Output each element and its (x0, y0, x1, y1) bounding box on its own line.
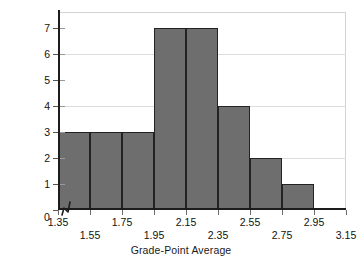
plot-area: 1234567 (58, 12, 346, 210)
x-tick-1-75 (122, 210, 123, 215)
y-tick-label: 1 (44, 178, 50, 190)
y-tick-inner-6 (60, 54, 65, 55)
y-axis-line (58, 10, 60, 210)
y-tick-label: 2 (44, 152, 50, 164)
y-tick-inner-5 (60, 80, 65, 81)
x-tick-label: 2.15 (176, 216, 196, 228)
x-tick-label: 3.15 (336, 229, 356, 241)
histogram-bar (90, 132, 122, 209)
x-tick-label: 1.95 (144, 229, 164, 241)
x-tick-2-35 (218, 210, 219, 215)
x-tick-label: 2.35 (208, 229, 228, 241)
y-tick-label: 6 (44, 48, 50, 60)
x-tick-2-55 (250, 210, 251, 215)
x-tick-label: 1.75 (112, 216, 132, 228)
y-tick-label: 4 (44, 100, 50, 112)
histogram-bar (154, 28, 186, 209)
x-tick-label: 2.55 (240, 216, 260, 228)
x-tick-1-95 (154, 210, 155, 215)
x-tick-label: 2.75 (272, 229, 292, 241)
y-tick-inner-1 (60, 184, 65, 185)
histogram-bar (122, 132, 154, 209)
x-tick-2-95 (314, 210, 315, 215)
x-tick-1-55 (90, 210, 91, 215)
axis-break-icon (58, 196, 80, 216)
histogram-figure: Frequency fi 1234567 1.351.551.751.952.1… (0, 0, 362, 266)
histogram-bar (218, 106, 250, 209)
origin-label: 0 (44, 211, 50, 223)
y-tick-inner-7 (60, 28, 65, 29)
x-axis-title: Grade-Point Average (0, 244, 362, 256)
y-tick-label: 3 (44, 126, 50, 138)
x-tick-label: 1.55 (80, 229, 100, 241)
y-tick-label: 7 (44, 22, 50, 34)
origin-label-text: 0 (44, 211, 50, 223)
y-tick-inner-4 (60, 106, 65, 107)
x-tick-3-15 (346, 210, 347, 215)
plot-frame-right (345, 12, 346, 210)
histogram-bar (250, 158, 282, 209)
x-tick-2-75 (282, 210, 283, 215)
x-axis-line (58, 208, 346, 210)
x-tick-label: 1.35 (48, 216, 68, 228)
histogram-bar (282, 184, 314, 209)
x-tick-2-15 (186, 210, 187, 215)
plot-frame-top (58, 12, 346, 13)
y-tick-inner-3 (60, 132, 65, 133)
x-tick-label: 2.95 (304, 216, 324, 228)
y-tick-label: 5 (44, 74, 50, 86)
x-axis-title-text: Grade-Point Average (131, 244, 232, 256)
histogram-bar (186, 28, 218, 209)
y-tick-inner-2 (60, 158, 65, 159)
